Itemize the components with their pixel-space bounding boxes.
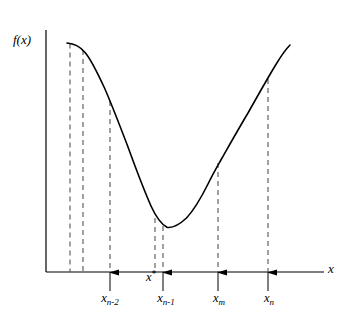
optimum-label: x* — [146, 271, 157, 284]
optimum-label-base: x — [146, 270, 152, 284]
tick-label-base: x — [101, 291, 107, 305]
tick-label-base: x — [264, 291, 270, 305]
tick-label-subscript: n-2 — [107, 297, 119, 307]
tick-label-subscript: n-1 — [163, 297, 175, 307]
axis-arrow-markers-group — [110, 273, 268, 292]
axes-group — [46, 30, 324, 272]
tick-label-base: x — [213, 291, 219, 305]
tick-label-x-n-minus-1: xn-1 — [157, 292, 175, 305]
tick-label-x-m: xm — [213, 292, 225, 305]
tick-label-x-n: xn — [264, 292, 274, 305]
optimum-label-star: * — [152, 268, 157, 279]
x-axis-label: x — [328, 262, 334, 275]
y-axis-label: f(x) — [13, 33, 31, 46]
function-curve — [67, 43, 290, 227]
function-plot-figure: f(x) x x* xn-2 xn-1 xm xn — [0, 0, 354, 327]
tick-label-x-n-minus-2: xn-2 — [101, 292, 119, 305]
tick-label-subscript: m — [219, 297, 226, 307]
tick-label-subscript: n — [270, 297, 275, 307]
plot-canvas — [0, 0, 354, 327]
tick-label-base: x — [157, 291, 163, 305]
